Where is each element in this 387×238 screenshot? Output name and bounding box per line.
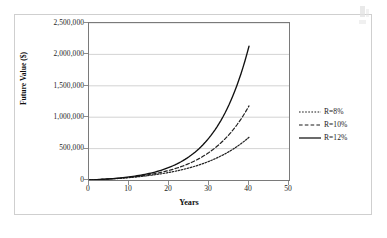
y-tick-label: 0 — [30, 175, 84, 184]
y-tick-mark — [83, 148, 88, 149]
y-tick-label: 2,500,000 — [30, 18, 84, 27]
legend-line-icon — [299, 108, 321, 116]
y-tick-mark — [83, 22, 88, 23]
legend-label: R=8% — [324, 107, 343, 116]
y-axis-ticks: 0500,0001,000,0001,500,0002,000,0002,500… — [24, 22, 84, 203]
plot-area — [88, 22, 290, 181]
y-tick-label: 2,000,000 — [30, 49, 84, 58]
series-line-r-12 — [89, 46, 249, 180]
x-axis-ticks: 01020304050 — [0, 184, 387, 198]
y-tick-mark — [83, 85, 88, 86]
legend-item[interactable]: R=10% — [299, 118, 363, 131]
y-tick-mark — [83, 116, 88, 117]
legend-line-icon — [299, 134, 321, 142]
series-line-r-8 — [89, 137, 249, 180]
x-tick-mark — [248, 181, 249, 185]
y-tick-label: 1,500,000 — [30, 81, 84, 90]
x-axis-title: Years — [88, 198, 290, 207]
x-tick-label: 30 — [193, 184, 223, 193]
x-tick-label: 50 — [273, 184, 303, 193]
chart-legend: R=8%R=10%R=12% — [299, 105, 363, 144]
y-tick-mark — [83, 53, 88, 54]
y-tick-label: 500,000 — [30, 143, 84, 152]
x-tick-label: 20 — [153, 184, 183, 193]
x-tick-label: 40 — [233, 184, 263, 193]
x-tick-mark — [208, 181, 209, 185]
scan-artifact — [360, 6, 365, 17]
x-tick-mark — [88, 181, 89, 185]
x-tick-label: 0 — [73, 184, 103, 193]
chart-figure: Future Value ($) 0500,0001,000,0001,500,… — [0, 0, 387, 238]
legend-item[interactable]: R=12% — [299, 131, 363, 144]
scan-artifact — [366, 9, 369, 17]
legend-label: R=10% — [324, 120, 347, 129]
x-tick-mark — [288, 181, 289, 185]
legend-line-icon — [299, 121, 321, 129]
y-tick-mark — [83, 179, 88, 180]
legend-label: R=12% — [324, 133, 347, 142]
y-tick-label: 1,000,000 — [30, 112, 84, 121]
x-tick-mark — [128, 181, 129, 185]
x-tick-mark — [168, 181, 169, 185]
scan-artifact — [359, 20, 366, 24]
legend-item[interactable]: R=8% — [299, 105, 363, 118]
x-tick-label: 10 — [113, 184, 143, 193]
plot-canvas — [89, 23, 289, 180]
